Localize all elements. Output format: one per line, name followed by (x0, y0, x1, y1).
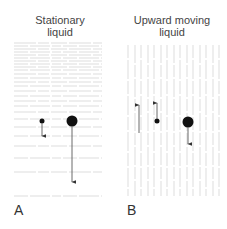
panel-a-label: A (14, 202, 23, 218)
small-particle (155, 119, 160, 124)
panel-a-streamlines (14, 43, 102, 196)
panel-b-particles (139, 103, 194, 144)
panel-b-label: B (127, 202, 136, 218)
large-particle (183, 117, 194, 128)
large-particle (67, 116, 78, 127)
panel-b-streamlines (128, 45, 219, 196)
settling-particles-diagram (0, 0, 227, 229)
small-particle (40, 119, 45, 124)
